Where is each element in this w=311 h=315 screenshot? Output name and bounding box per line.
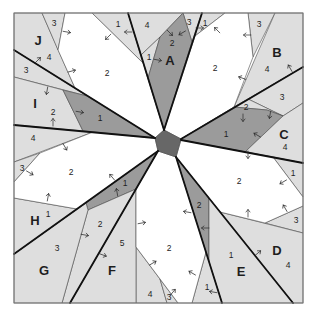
label-b: B [272,45,281,60]
quilt-block-diagram: A B C D E F G H I J 1 2 3 4 1 2 3 4 1 2 … [0,0,311,315]
num-g2: 2 [98,219,103,229]
num-a4: 4 [145,20,150,30]
label-d: D [272,243,281,258]
num-j1: 1 [116,19,121,29]
num-a2: 2 [170,38,175,48]
num-j4: 4 [47,52,52,62]
num-a3: 3 [187,17,192,27]
num-f5: 5 [120,238,125,248]
num-h3: 3 [20,163,25,173]
num-a1: 1 [147,52,152,62]
num-d2: 2 [237,176,242,186]
num-f1: 1 [205,282,210,292]
num-j3: 3 [52,18,57,28]
label-c: C [279,127,289,142]
num-i1: 1 [98,113,103,123]
num-h1: 1 [46,209,51,219]
num-i2: 2 [51,107,56,117]
label-j: J [34,33,41,48]
num-b2: 2 [213,63,218,73]
num-e2: 2 [197,200,202,210]
num-b3: 3 [257,19,262,29]
num-b1: 1 [203,18,208,28]
num-d1: 1 [291,168,296,178]
num-f2: 2 [167,243,172,253]
num-c1: 1 [224,129,229,139]
num-g1: 1 [123,178,128,188]
num-i3: 3 [24,65,29,75]
label-f: F [108,263,116,278]
num-d4: 4 [286,260,291,270]
label-i: I [33,96,37,111]
num-j2: 2 [105,68,110,78]
num-c3: 3 [280,92,285,102]
num-c2: 2 [244,102,249,112]
num-h4: 4 [31,133,36,143]
num-b4: 4 [265,64,270,74]
num-c4: 4 [283,142,288,152]
num-f4: 4 [148,289,153,299]
label-a: A [165,53,175,68]
label-g: G [39,263,49,278]
num-f3: 3 [167,292,172,302]
num-e1: 1 [229,250,234,260]
label-e: E [237,264,246,279]
num-g3: 3 [55,243,60,253]
num-d3: 3 [294,215,299,225]
num-h2: 2 [69,167,74,177]
label-h: H [30,213,39,228]
